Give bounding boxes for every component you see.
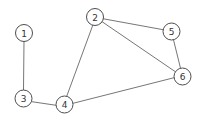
graph-node-label-6: 6 (180, 72, 186, 82)
graph-node-5[interactable]: 5 (163, 23, 180, 40)
graph-edge-2-4 (67, 25, 93, 96)
graph-edge-4-6 (73, 78, 174, 104)
graph-node-label-1: 1 (21, 29, 27, 39)
graph-figure: 123456 (0, 0, 202, 121)
graph-node-label-3: 3 (21, 94, 27, 104)
graph-edge-3-4 (32, 102, 56, 106)
graph-node-label-4: 4 (62, 100, 68, 110)
graph-edge-5-6 (174, 40, 181, 68)
graph-node-4[interactable]: 4 (56, 96, 73, 113)
graph-edge-2-5 (103, 19, 163, 30)
graph-node-6[interactable]: 6 (174, 68, 191, 85)
nodes-layer: 123456 (15, 9, 191, 114)
graph-node-label-5: 5 (169, 27, 175, 37)
graph-edge-1-3 (24, 42, 25, 91)
graph-node-3[interactable]: 3 (15, 90, 32, 107)
graph-canvas: 123456 (0, 0, 202, 121)
graph-node-label-2: 2 (92, 13, 98, 23)
graph-node-2[interactable]: 2 (87, 9, 104, 26)
graph-node-1[interactable]: 1 (16, 25, 33, 42)
edges-layer (24, 19, 181, 106)
